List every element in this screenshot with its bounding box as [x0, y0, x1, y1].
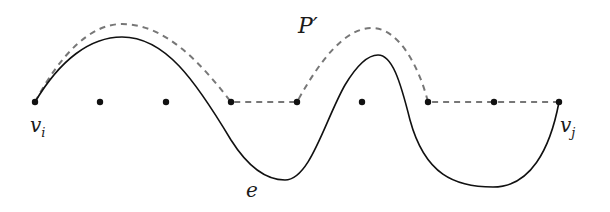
diagram-svg: vi vj P′ e	[0, 0, 610, 212]
label-v-i: vi	[30, 113, 45, 140]
vertex-dot	[228, 99, 234, 105]
label-p-prime: P′	[297, 13, 318, 38]
vertex-dot	[556, 99, 562, 105]
path-p-prime-dashed	[35, 24, 559, 102]
diagram-canvas: vi vj P′ e	[0, 0, 610, 212]
vertex-dot	[359, 99, 365, 105]
vertex-group	[32, 99, 562, 105]
label-v-j: vj	[560, 113, 575, 140]
vertex-dot	[32, 99, 38, 105]
vertex-dot	[294, 99, 300, 105]
vertex-dot	[163, 99, 169, 105]
vertex-dot	[491, 99, 497, 105]
edge-e-solid	[35, 37, 559, 187]
vertex-dot	[425, 99, 431, 105]
vertex-dot	[97, 99, 103, 105]
label-e: e	[246, 178, 258, 202]
